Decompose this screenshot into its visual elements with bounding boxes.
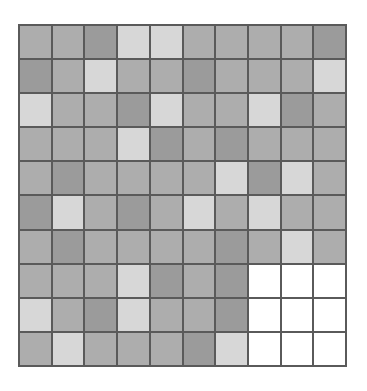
tile-medium[interactable] [282, 26, 313, 58]
tile-medium[interactable] [249, 26, 280, 58]
tile-medium[interactable] [249, 60, 280, 92]
tile-medium[interactable] [216, 60, 247, 92]
tile-dark[interactable] [184, 60, 215, 92]
tile-light[interactable] [151, 94, 182, 126]
tile-medium[interactable] [20, 26, 51, 58]
tile-dark[interactable] [53, 162, 84, 194]
tile-medium[interactable] [20, 162, 51, 194]
empty-cell[interactable] [282, 333, 313, 365]
tile-dark[interactable] [151, 265, 182, 297]
tile-medium[interactable] [118, 333, 149, 365]
tile-light[interactable] [184, 196, 215, 228]
tile-dark[interactable] [118, 196, 149, 228]
tile-medium[interactable] [85, 231, 116, 263]
tile-light[interactable] [282, 162, 313, 194]
tile-dark[interactable] [216, 265, 247, 297]
tile-light[interactable] [216, 162, 247, 194]
empty-cell[interactable] [314, 265, 345, 297]
tile-medium[interactable] [151, 60, 182, 92]
tile-medium[interactable] [314, 162, 345, 194]
tile-dark[interactable] [216, 128, 247, 160]
tile-medium[interactable] [151, 231, 182, 263]
tile-medium[interactable] [184, 162, 215, 194]
tile-medium[interactable] [20, 333, 51, 365]
tile-dark[interactable] [216, 231, 247, 263]
tile-medium[interactable] [314, 196, 345, 228]
tile-dark[interactable] [53, 231, 84, 263]
tile-medium[interactable] [53, 94, 84, 126]
tile-dark[interactable] [216, 299, 247, 331]
tile-light[interactable] [249, 196, 280, 228]
tile-medium[interactable] [53, 299, 84, 331]
tile-light[interactable] [53, 333, 84, 365]
tile-dark[interactable] [151, 128, 182, 160]
tile-medium[interactable] [85, 94, 116, 126]
empty-cell[interactable] [249, 265, 280, 297]
tile-medium[interactable] [216, 26, 247, 58]
tile-medium[interactable] [85, 333, 116, 365]
tile-medium[interactable] [151, 333, 182, 365]
tile-light[interactable] [85, 60, 116, 92]
empty-cell[interactable] [282, 265, 313, 297]
tile-medium[interactable] [118, 60, 149, 92]
tile-medium[interactable] [20, 231, 51, 263]
empty-cell[interactable] [314, 333, 345, 365]
tile-light[interactable] [249, 94, 280, 126]
tile-dark[interactable] [249, 162, 280, 194]
tile-dark[interactable] [184, 333, 215, 365]
tile-medium[interactable] [53, 128, 84, 160]
tile-light[interactable] [20, 299, 51, 331]
tile-medium[interactable] [20, 128, 51, 160]
tile-medium[interactable] [314, 231, 345, 263]
tile-medium[interactable] [184, 231, 215, 263]
tile-medium[interactable] [184, 265, 215, 297]
tile-light[interactable] [53, 196, 84, 228]
tile-medium[interactable] [20, 265, 51, 297]
tile-medium[interactable] [85, 128, 116, 160]
tile-light[interactable] [314, 60, 345, 92]
tile-dark[interactable] [118, 94, 149, 126]
tile-medium[interactable] [184, 299, 215, 331]
tile-medium[interactable] [151, 299, 182, 331]
tile-medium[interactable] [184, 26, 215, 58]
tile-dark[interactable] [85, 299, 116, 331]
tile-light[interactable] [118, 299, 149, 331]
tile-medium[interactable] [53, 265, 84, 297]
tile-medium[interactable] [151, 162, 182, 194]
tile-dark[interactable] [314, 26, 345, 58]
tile-medium[interactable] [282, 128, 313, 160]
tile-medium[interactable] [85, 196, 116, 228]
tile-medium[interactable] [53, 60, 84, 92]
tile-medium[interactable] [151, 196, 182, 228]
tile-medium[interactable] [85, 162, 116, 194]
tile-dark[interactable] [85, 26, 116, 58]
tile-medium[interactable] [314, 128, 345, 160]
empty-cell[interactable] [282, 299, 313, 331]
tile-medium[interactable] [118, 231, 149, 263]
tile-medium[interactable] [282, 196, 313, 228]
tile-dark[interactable] [282, 94, 313, 126]
tile-light[interactable] [118, 128, 149, 160]
tile-medium[interactable] [249, 128, 280, 160]
tile-light[interactable] [20, 94, 51, 126]
tile-medium[interactable] [216, 94, 247, 126]
empty-cell[interactable] [249, 299, 280, 331]
tile-light[interactable] [118, 265, 149, 297]
tile-medium[interactable] [118, 162, 149, 194]
tile-medium[interactable] [216, 196, 247, 228]
tile-dark[interactable] [20, 196, 51, 228]
tile-medium[interactable] [184, 128, 215, 160]
tile-medium[interactable] [282, 60, 313, 92]
tile-medium[interactable] [314, 94, 345, 126]
tile-medium[interactable] [184, 94, 215, 126]
empty-cell[interactable] [249, 333, 280, 365]
tile-medium[interactable] [85, 265, 116, 297]
tile-dark[interactable] [20, 60, 51, 92]
tile-medium[interactable] [53, 26, 84, 58]
tile-medium[interactable] [249, 231, 280, 263]
tile-light[interactable] [151, 26, 182, 58]
tile-light[interactable] [282, 231, 313, 263]
empty-cell[interactable] [314, 299, 345, 331]
tile-light[interactable] [216, 333, 247, 365]
tile-light[interactable] [118, 26, 149, 58]
